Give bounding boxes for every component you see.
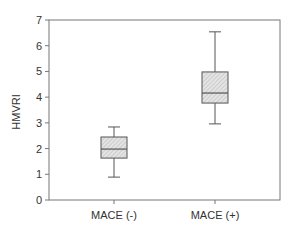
iqr-box bbox=[101, 137, 127, 158]
box-plot-chart: 01234567 MACE (-)MACE (+) HMVRI bbox=[0, 0, 296, 232]
box-mace-negative bbox=[101, 127, 127, 177]
y-axis-label: HMVRI bbox=[10, 94, 22, 129]
x-axis: MACE (-)MACE (+) bbox=[91, 200, 239, 221]
x-tick-label: MACE (+) bbox=[191, 209, 240, 221]
box-series bbox=[101, 32, 228, 177]
plot-area bbox=[49, 20, 280, 200]
y-tick-label: 1 bbox=[36, 168, 42, 180]
box-mace-positive bbox=[202, 32, 228, 124]
y-axis: 01234567 bbox=[36, 14, 49, 206]
iqr-box bbox=[202, 72, 228, 103]
y-tick-label: 6 bbox=[36, 40, 42, 52]
y-tick-label: 2 bbox=[36, 143, 42, 155]
x-tick-label: MACE (-) bbox=[91, 209, 137, 221]
y-tick-label: 5 bbox=[36, 65, 42, 77]
y-tick-label: 7 bbox=[36, 14, 42, 26]
y-tick-label: 4 bbox=[36, 91, 42, 103]
y-tick-label: 0 bbox=[36, 194, 42, 206]
plot-border bbox=[49, 20, 280, 200]
y-tick-label: 3 bbox=[36, 117, 42, 129]
